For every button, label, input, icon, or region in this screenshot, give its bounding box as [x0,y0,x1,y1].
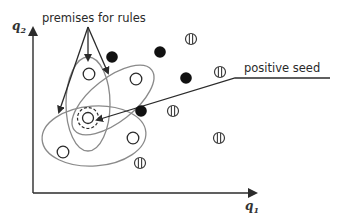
seed-point [83,113,94,124]
open-point [130,73,142,85]
seed-label: positive seed [244,61,320,75]
premises-diagram: q2 q1 premises for rules positive seed [0,0,345,223]
premise-arrow-right [88,27,108,73]
filled-point [106,51,118,63]
open-point [127,132,139,144]
premise-arrow-left [59,27,88,112]
hatched-point [215,67,226,78]
axes: q2 q1 [12,19,259,215]
filled-point [180,72,192,84]
hatched-point [168,106,179,117]
filled-point [154,46,166,58]
open-point [83,68,95,80]
x-axis-label: q1 [245,199,259,215]
hatched-points [135,34,226,169]
premises-label: premises for rules [42,11,146,25]
positive-seed [78,108,99,129]
seed-annotation: positive seed [97,61,330,120]
premise-ellipse-tilted [61,52,165,147]
hatched-point [214,133,225,144]
hatched-point [186,34,197,45]
filled-point [135,105,147,117]
filled-points [106,46,192,117]
y-axis-label: q2 [12,19,26,35]
open-point [57,146,69,158]
hatched-point [135,158,146,169]
premises-annotation: premises for rules [42,11,146,112]
